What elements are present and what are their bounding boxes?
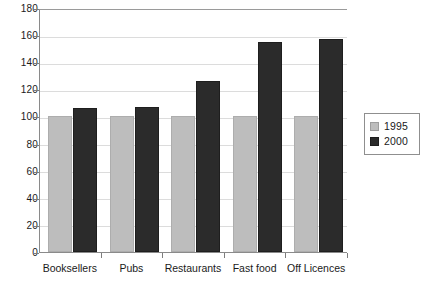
- chart-legend[interactable]: 1995 2000: [364, 113, 420, 155]
- legend-label-2000: 2000: [384, 136, 408, 147]
- bar-2000-restaurants[interactable]: [196, 81, 220, 252]
- legend-swatch-2000-icon: [370, 137, 379, 146]
- bar-group: [286, 8, 348, 252]
- bar-1995-off-licences[interactable]: [294, 116, 318, 252]
- bar-2000-pubs[interactable]: [135, 107, 159, 252]
- bar-2000-fast-food[interactable]: [258, 42, 282, 252]
- x-axis-tick-label: Fast food: [224, 262, 286, 274]
- bar-1995-restaurants[interactable]: [171, 116, 195, 252]
- x-axis-tick-mark: [224, 253, 225, 258]
- bar-2000-booksellers[interactable]: [73, 108, 97, 252]
- x-axis-tick-label: Restaurants: [162, 262, 224, 274]
- bar-1995-booksellers[interactable]: [48, 116, 72, 252]
- bar-1995-pubs[interactable]: [110, 116, 134, 252]
- bar-group: [102, 8, 164, 252]
- bar-group: [225, 8, 287, 252]
- x-axis-tick-mark: [162, 253, 163, 258]
- x-axis-tick-mark: [101, 253, 102, 258]
- x-axis-tick-mark: [285, 253, 286, 258]
- bar-2000-off-licences[interactable]: [319, 39, 343, 252]
- bar-1995-fast-food[interactable]: [233, 116, 257, 252]
- x-axis-tick-mark: [347, 253, 348, 258]
- bar-group: [163, 8, 225, 252]
- legend-item-1995[interactable]: 1995: [370, 119, 415, 134]
- plot-area: [39, 9, 347, 253]
- legend-label-1995: 1995: [384, 121, 408, 132]
- bar-group: [40, 8, 102, 252]
- legend-swatch-1995-icon: [370, 122, 379, 131]
- x-axis-tick-label: Pubs: [101, 262, 163, 274]
- x-axis-tick-label: Booksellers: [39, 262, 101, 274]
- y-axis-tick-mark: [34, 253, 39, 254]
- x-axis-tick-label: Off Licences: [285, 262, 347, 274]
- bar-chart-figure: 020406080100120140160180 BooksellersPubs…: [0, 0, 433, 292]
- legend-item-2000[interactable]: 2000: [370, 134, 415, 149]
